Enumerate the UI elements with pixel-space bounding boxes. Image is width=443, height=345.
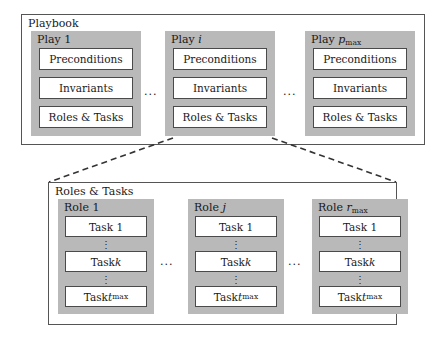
play-1-item-roles-tasks: Roles & Tasks [39, 106, 133, 128]
role-3-task-ellipsis-2: ⋮ [312, 275, 408, 285]
play-2-item-invariants: Invariants [173, 77, 267, 99]
role-2-task-2: Task k [195, 251, 277, 272]
role-3-task-1: Task 1 [319, 216, 401, 237]
roles-ellipsis-2: ... [288, 256, 302, 267]
play-2-item-roles-tasks: Roles & Tasks [173, 106, 267, 128]
playbook-title: Playbook [28, 17, 79, 30]
playbook-hierarchy-diagram: Playbook Play 1PreconditionsInvariantsRo… [0, 0, 443, 345]
roles-and-tasks-title: Roles & Tasks [55, 185, 133, 198]
role-group-1: Role 1Task 1Task kTask tmax⋮⋮ [58, 199, 154, 314]
role-label-2: Role j [194, 201, 226, 214]
role-1-task-2: Task k [65, 251, 147, 272]
role-1-task-ellipsis-1: ⋮ [58, 240, 154, 250]
play-2-item-preconditions: Preconditions [173, 48, 267, 70]
role-group-2: Role jTask 1Task kTask tmax⋮⋮ [188, 199, 284, 314]
role-2-task-1: Task 1 [195, 216, 277, 237]
play-group-1: Play 1PreconditionsInvariantsRoles & Tas… [31, 31, 141, 136]
play-3-item-preconditions: Preconditions [313, 48, 407, 70]
role-label-3: Role rmax [318, 201, 368, 217]
role-3-task-ellipsis-1: ⋮ [312, 240, 408, 250]
roles-ellipsis-1: ... [160, 256, 174, 267]
play-label-2: Play i [171, 33, 202, 46]
play-label-3: Play pmax [311, 33, 361, 49]
role-1-task-ellipsis-2: ⋮ [58, 275, 154, 285]
play-1-item-preconditions: Preconditions [39, 48, 133, 70]
role-2-task-ellipsis-1: ⋮ [188, 240, 284, 250]
role-2-task-ellipsis-2: ⋮ [188, 275, 284, 285]
role-label-1: Role 1 [64, 201, 99, 214]
role-1-task-1: Task 1 [65, 216, 147, 237]
role-3-task-3: Task tmax [319, 286, 401, 307]
role-3-task-2: Task k [319, 251, 401, 272]
role-1-task-3: Task tmax [65, 286, 147, 307]
play-1-item-invariants: Invariants [39, 77, 133, 99]
role-2-task-3: Task tmax [195, 286, 277, 307]
play-3-item-invariants: Invariants [313, 77, 407, 99]
plays-ellipsis-1: ... [144, 86, 158, 97]
play-label-1: Play 1 [37, 33, 71, 46]
play-3-item-roles-tasks: Roles & Tasks [313, 106, 407, 128]
play-group-3: Play pmaxPreconditionsInvariantsRoles & … [305, 31, 415, 136]
play-group-2: Play iPreconditionsInvariantsRoles & Tas… [165, 31, 275, 136]
plays-ellipsis-2: ... [283, 86, 297, 97]
role-group-3: Role rmaxTask 1Task kTask tmax⋮⋮ [312, 199, 408, 314]
